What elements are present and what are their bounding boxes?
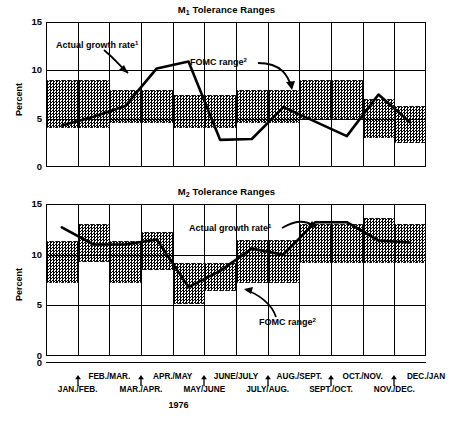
y-axis-tick-label: 5 bbox=[20, 300, 42, 310]
y-axis-tick-label: 15 bbox=[20, 199, 42, 209]
x-axis-label-lower: SEPT./OCT. bbox=[309, 384, 353, 395]
x-axis-line bbox=[46, 362, 426, 363]
x-axis-label-upper: JUNE/JULY bbox=[214, 371, 258, 382]
x-axis-label-upper: DEC./JAN bbox=[407, 371, 445, 382]
x-axis-tick-arrow-icon bbox=[328, 372, 335, 383]
x-axis-tick-arrow-icon bbox=[264, 372, 271, 383]
x-axis-tick-arrow-icon bbox=[138, 372, 145, 383]
chart-panel-m1: M1 Tolerance Ranges Percent Actual growt… bbox=[0, 4, 453, 180]
x-axis-label-upper: OCT./NOV. bbox=[343, 371, 383, 382]
actual-growth-rate-line bbox=[62, 62, 410, 140]
x-axis-labels-lower: JAN./FEB.MAR./APR.MAY/JUNEJULY/AUG.SEPT.… bbox=[0, 384, 453, 395]
y-axis-tick-label: 0 bbox=[20, 162, 42, 172]
x-axis-tick-arrow-icon bbox=[201, 372, 208, 383]
x-axis-labels-upper: FEB./MAR.APR./MAYJUNE/JULYAUG./SEPT.OCT.… bbox=[0, 371, 453, 382]
chart-panel-m2: M2 Tolerance Ranges Percent Actual growt… bbox=[0, 186, 453, 368]
x-axis: 0 FEB./MAR.APR./MAYJUNE/JULYAUG./SEPT.OC… bbox=[0, 362, 453, 421]
x-axis-zero-label: 0 bbox=[20, 357, 42, 368]
x-axis-tick-arrow-icon bbox=[74, 372, 81, 383]
x-axis-label-lower: JULY/AUG. bbox=[246, 384, 289, 395]
annotation-arrow-fomc-m1 bbox=[258, 63, 292, 88]
x-axis-label-lower: MAR./APR. bbox=[120, 384, 163, 395]
annotation-actual-growth-rate-m2: Actual growth rate1 bbox=[189, 223, 272, 233]
x-axis-label-lower: MAY/JUNE bbox=[184, 384, 226, 395]
y-axis-tick-label: 5 bbox=[20, 114, 42, 124]
annotation-arrow-fomc-m2 bbox=[246, 290, 276, 317]
y-axis-tick-label: 10 bbox=[20, 65, 42, 75]
x-axis-label-lower: JAN./FEB. bbox=[58, 384, 98, 395]
y-axis-tick-label: 10 bbox=[20, 250, 42, 260]
x-axis-label-lower: NOV./DEC. bbox=[374, 384, 415, 395]
x-axis-label-upper: FEB./MAR. bbox=[88, 371, 130, 382]
y-axis-tick-label: 15 bbox=[20, 17, 42, 27]
x-axis-tick-arrow-icon bbox=[391, 372, 398, 383]
annotation-actual-growth-rate-m1: Actual growth rate1 bbox=[56, 40, 139, 50]
annotation-arrowhead-fomc-m1 bbox=[286, 81, 295, 90]
annotation-fomc-range-m2: FOMC range2 bbox=[259, 317, 317, 327]
x-axis-label-upper: APR./MAY bbox=[153, 371, 192, 382]
figure-root: M1 Tolerance Ranges Percent Actual growt… bbox=[0, 0, 453, 421]
x-axis-label-upper: AUG./SEPT. bbox=[277, 371, 323, 382]
x-axis-year-label: 1976 bbox=[0, 400, 453, 410]
annotation-fomc-range-m1: FOMC range2 bbox=[190, 57, 248, 67]
